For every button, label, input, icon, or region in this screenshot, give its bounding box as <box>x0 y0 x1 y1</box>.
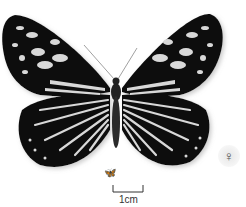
butterfly-silhouette-icon: 🦋 <box>104 167 116 178</box>
female-symbol-icon: ♀ <box>218 145 240 167</box>
scale-bar <box>113 185 143 192</box>
abdomen <box>112 96 120 148</box>
scale-bar-label: 1cm <box>119 194 138 205</box>
butterfly-illustration <box>0 0 246 207</box>
